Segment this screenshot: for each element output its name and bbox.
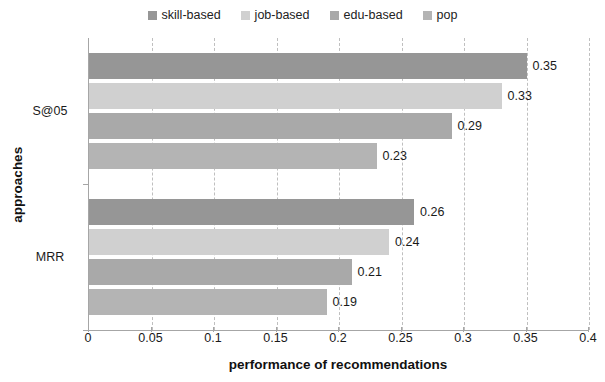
bar-job-based-mrr: [89, 229, 389, 255]
chart-legend: skill-based job-based edu-based pop: [0, 4, 605, 26]
x-tick-mark: [338, 327, 339, 332]
bar-skill-based-s05: [89, 53, 527, 79]
x-tick-label: 0.3: [454, 332, 471, 345]
x-tick-label: 0.4: [579, 332, 596, 345]
bar-skill-based-mrr: [89, 199, 414, 225]
x-tick-mark: [401, 327, 402, 332]
x-tick-label: 0.15: [263, 332, 287, 345]
bar-value-label: 0.21: [358, 266, 382, 279]
bars-layer: 0.350.330.290.230.260.240.210.19: [89, 38, 589, 330]
legend-label-pop: pop: [437, 9, 458, 22]
legend-item-job-based: job-based: [241, 9, 310, 22]
bar-value-label: 0.19: [333, 296, 357, 309]
bar-value-label: 0.26: [420, 206, 444, 219]
x-tick-label: 0: [85, 332, 92, 345]
plot-area: 0.350.330.290.230.260.240.210.19: [88, 38, 589, 331]
bar-value-label: 0.29: [458, 120, 482, 133]
bar-pop-mrr: [89, 289, 327, 315]
x-tick-mark: [151, 327, 152, 332]
legend-swatch-pop: [423, 11, 432, 20]
bar-value-label: 0.35: [533, 60, 557, 73]
bar-pop-s05: [89, 143, 377, 169]
y-category-label-s05: S@05: [18, 105, 82, 118]
legend-swatch-edu-based: [330, 11, 339, 20]
bar-value-label: 0.33: [508, 90, 532, 103]
x-tick-mark: [526, 327, 527, 332]
legend-label-job-based: job-based: [255, 9, 310, 22]
legend-item-pop: pop: [423, 9, 458, 22]
x-tick-label: 0.1: [204, 332, 221, 345]
x-tick-mark: [88, 327, 89, 332]
y-tick-mark: [83, 184, 88, 185]
bar-value-label: 0.24: [395, 236, 419, 249]
y-category-label-mrr: MRR: [18, 251, 82, 264]
x-tick-label: 0.35: [513, 332, 537, 345]
bar-edu-based-mrr: [89, 259, 352, 285]
bar-value-label: 0.23: [383, 150, 407, 163]
x-tick-mark: [463, 327, 464, 332]
x-tick-mark: [588, 327, 589, 332]
bar-edu-based-s05: [89, 113, 452, 139]
bar-chart: skill-based job-based edu-based pop 0.35…: [0, 0, 605, 382]
x-tick-mark: [213, 327, 214, 332]
x-tick-label: 0.05: [138, 332, 162, 345]
bar-job-based-s05: [89, 83, 502, 109]
x-tick-label: 0.25: [388, 332, 412, 345]
y-axis-title: approaches: [11, 130, 25, 240]
legend-swatch-job-based: [241, 11, 250, 20]
legend-label-edu-based: edu-based: [344, 9, 403, 22]
x-axis-ticks: 00.050.10.150.20.250.30.350.4: [88, 332, 588, 352]
legend-item-skill-based: skill-based: [148, 9, 221, 22]
legend-swatch-skill-based: [148, 11, 157, 20]
legend-label-skill-based: skill-based: [162, 9, 221, 22]
x-tick-label: 0.2: [329, 332, 346, 345]
x-tick-mark: [276, 327, 277, 332]
x-axis-title: performance of recommendations: [88, 358, 588, 372]
gridline: [589, 38, 590, 330]
legend-item-edu-based: edu-based: [330, 9, 403, 22]
